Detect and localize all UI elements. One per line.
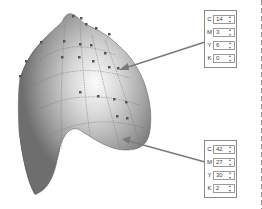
spinner-arrows-icon[interactable] <box>228 55 233 62</box>
black-spinner[interactable]: 2 <box>213 184 235 193</box>
channel-label: M <box>206 27 213 37</box>
cmyk-row-c: C 14 <box>206 14 235 24</box>
cmyk-row-c: C 42 <box>206 144 235 154</box>
cyan-spinner[interactable]: 14 <box>213 15 235 24</box>
spinner-arrows-icon[interactable] <box>228 172 233 179</box>
channel-label: C <box>206 144 213 154</box>
cyan-spinner[interactable]: 42 <box>213 145 235 154</box>
channel-label: K <box>206 53 213 63</box>
value: 42 <box>214 145 228 153</box>
cmyk-row-m: M 3 <box>206 27 235 37</box>
channel-label: M <box>206 157 213 167</box>
spinner-arrows-icon[interactable] <box>228 16 233 23</box>
magenta-spinner[interactable]: 3 <box>213 28 235 37</box>
value: 3 <box>214 28 228 36</box>
channel-label: Y <box>206 40 213 50</box>
value: 2 <box>214 184 228 192</box>
spinner-arrows-icon[interactable] <box>228 29 233 36</box>
yellow-spinner[interactable]: 30 <box>213 171 235 180</box>
gradient-mesh-figure: C 14 M 3 Y 6 K 0 C 42 M 27 Y 30 K <box>0 0 262 209</box>
value: 27 <box>214 158 228 166</box>
cmyk-row-y: Y 6 <box>206 40 235 50</box>
value: 14 <box>214 15 228 23</box>
value: 0 <box>214 54 228 62</box>
cmyk-row-k: K 2 <box>206 183 235 193</box>
cmyk-panel-bottom: C 42 M 27 Y 30 K 2 <box>204 140 237 198</box>
black-spinner[interactable]: 0 <box>213 54 235 63</box>
value: 6 <box>214 41 228 49</box>
cmyk-row-k: K 0 <box>206 53 235 63</box>
channel-label: C <box>206 14 213 24</box>
channel-label: Y <box>206 170 213 180</box>
magenta-spinner[interactable]: 27 <box>213 158 235 167</box>
value: 30 <box>214 171 228 179</box>
spinner-arrows-icon[interactable] <box>228 159 233 166</box>
cmyk-row-m: M 27 <box>206 157 235 167</box>
cmyk-row-y: Y 30 <box>206 170 235 180</box>
channel-label: K <box>206 183 213 193</box>
yellow-spinner[interactable]: 6 <box>213 41 235 50</box>
dashed-divider <box>261 0 262 209</box>
spinner-arrows-icon[interactable] <box>228 146 233 153</box>
spinner-arrows-icon[interactable] <box>228 185 233 192</box>
cmyk-panel-top: C 14 M 3 Y 6 K 0 <box>204 10 237 68</box>
spinner-arrows-icon[interactable] <box>228 42 233 49</box>
